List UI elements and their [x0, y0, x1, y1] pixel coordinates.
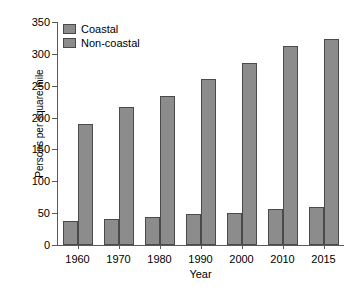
y-tick-label: 350	[32, 17, 50, 28]
plot-area: 050100150200250300350 196019701980199020…	[57, 22, 344, 245]
y-tick-label: 100	[32, 176, 50, 187]
bar-non-coastal	[160, 96, 175, 245]
legend-item: Coastal	[63, 22, 140, 35]
x-tick-label: 1980	[147, 253, 171, 265]
y-tick-mark	[52, 245, 57, 246]
bar-non-coastal	[283, 46, 298, 245]
chart-legend: CoastalNon-coastal	[63, 22, 140, 50]
x-tick-mark	[201, 245, 202, 249]
bar-group	[145, 22, 175, 245]
legend-label: Non-coastal	[81, 37, 140, 49]
legend-label: Coastal	[81, 23, 118, 35]
bars-layer	[57, 22, 344, 245]
bar-coastal	[227, 213, 242, 245]
bar-group	[227, 22, 257, 245]
x-tick-mark	[78, 245, 79, 249]
y-tick-label: 50	[38, 208, 50, 219]
x-tick-label: 1970	[106, 253, 130, 265]
bar-coastal	[145, 217, 160, 245]
x-tick-label: 2000	[229, 253, 253, 265]
x-tick-mark	[283, 245, 284, 249]
bar-group	[104, 22, 134, 245]
x-tick-label: 2010	[270, 253, 294, 265]
x-tick-label: 1990	[188, 253, 212, 265]
bar-non-coastal	[242, 63, 257, 245]
x-tick-label: 1960	[65, 253, 89, 265]
x-tick-mark	[324, 245, 325, 249]
x-tick-mark	[242, 245, 243, 249]
bar-coastal	[186, 214, 201, 245]
bar-coastal	[63, 221, 78, 245]
x-tick-mark	[160, 245, 161, 249]
bar-chart: Persons per square mile 0501001502002503…	[0, 0, 359, 290]
y-tick-label: 150	[32, 144, 50, 155]
bar-non-coastal	[119, 107, 134, 245]
y-tick-label: 250	[32, 80, 50, 91]
y-tick-label: 200	[32, 112, 50, 123]
bar-non-coastal	[201, 79, 216, 245]
legend-swatch-icon	[63, 24, 76, 34]
legend-item: Non-coastal	[63, 36, 140, 49]
bar-group	[63, 22, 93, 245]
bar-coastal	[268, 209, 283, 245]
bar-coastal	[309, 207, 324, 245]
bar-group	[186, 22, 216, 245]
y-tick-label: 0	[44, 240, 50, 251]
legend-swatch-icon	[63, 38, 76, 48]
bar-group	[309, 22, 339, 245]
bar-non-coastal	[324, 39, 339, 245]
x-axis-title: Year	[57, 268, 344, 280]
x-tick-label: 2015	[311, 253, 335, 265]
bar-non-coastal	[78, 124, 93, 245]
bar-coastal	[104, 219, 119, 245]
bar-group	[268, 22, 298, 245]
y-tick-label: 300	[32, 48, 50, 59]
x-tick-mark	[119, 245, 120, 249]
